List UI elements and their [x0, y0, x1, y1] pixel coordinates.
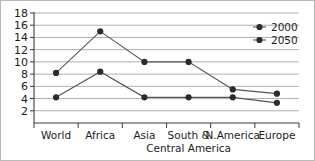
data-point-2050-N.America[interactable]	[230, 86, 236, 92]
x-axis-category-label: Europe	[258, 129, 295, 141]
y-axis-tick-label: 10	[14, 56, 28, 69]
series-line-2050	[56, 31, 277, 93]
y-axis-tick-label: 8	[21, 68, 28, 81]
data-point-2050-Asia[interactable]	[141, 59, 147, 65]
y-axis-tick-label: 16	[14, 19, 28, 32]
data-point-2050-World[interactable]	[53, 70, 59, 76]
data-point-2000-N.America[interactable]	[230, 94, 236, 100]
legend-marker-2000	[256, 24, 262, 30]
y-axis-tick-label: 12	[14, 44, 28, 57]
y-axis-tick-label: 6	[21, 80, 28, 93]
x-axis-category-label: N.America	[205, 129, 260, 141]
legend-marker-2050	[256, 37, 262, 43]
chart-container: 24681012141618WorldAfricaAsiaSouth &Cent…	[0, 0, 315, 161]
x-axis-category-label: Asia	[133, 129, 155, 141]
data-point-2050-SouthCentralAmerica[interactable]	[185, 59, 191, 65]
y-axis-tick-label: 14	[14, 31, 28, 44]
data-point-2050-Europe[interactable]	[274, 91, 280, 97]
x-axis-category-label-line2: Central America	[146, 142, 231, 154]
data-point-2050-Africa[interactable]	[97, 28, 103, 34]
legend-label-2000[interactable]: 2000	[271, 21, 298, 33]
x-axis-category-label: World	[41, 129, 71, 141]
y-axis-tick-label: 18	[14, 7, 28, 20]
data-point-2000-World[interactable]	[53, 94, 59, 100]
data-point-2000-Africa[interactable]	[97, 69, 103, 75]
x-axis-category-label: South &	[168, 129, 210, 141]
y-axis-tick-label: 2	[21, 105, 28, 118]
data-point-2000-Asia[interactable]	[141, 94, 147, 100]
y-axis-tick-label: 4	[21, 93, 28, 106]
data-point-2000-SouthCentralAmerica[interactable]	[185, 94, 191, 100]
data-point-2000-Europe[interactable]	[274, 100, 280, 106]
legend-label-2050[interactable]: 2050	[271, 34, 298, 46]
line-chart: 24681012141618WorldAfricaAsiaSouth &Cent…	[1, 1, 315, 161]
x-axis-category-label: Africa	[85, 129, 115, 141]
